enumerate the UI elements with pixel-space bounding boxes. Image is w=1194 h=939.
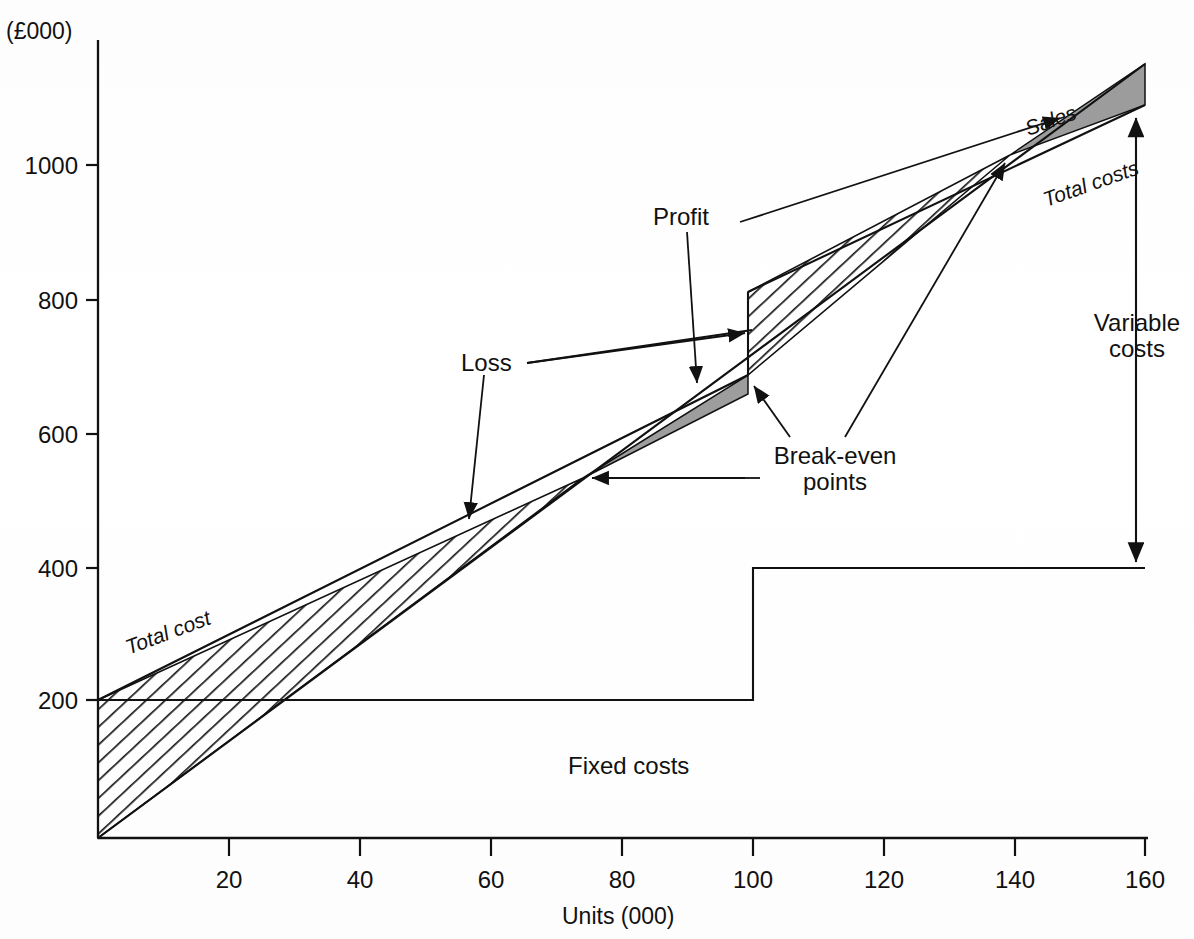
callout-variable-costs: Variable costs [1062, 310, 1194, 362]
x-axis-title: Units (000) [562, 903, 674, 930]
x-tick-100: 100 [723, 866, 783, 894]
x-tick-20: 20 [199, 866, 259, 894]
x-tick-120: 120 [854, 866, 914, 894]
break-even-line-1: Break-even [774, 442, 897, 469]
y-axis-ticks [86, 165, 98, 700]
x-axis-ticks [229, 838, 1145, 856]
callout-profit: Profit [653, 203, 709, 231]
callout-break-even: Break-even points [745, 443, 925, 495]
y-tick-1000: 1000 [8, 152, 78, 180]
callout-loss: Loss [461, 349, 512, 377]
profit-region-upper [1010, 64, 1145, 155]
profit-region-lower [583, 375, 748, 478]
chart-canvas [0, 0, 1194, 939]
y-tick-400: 400 [8, 555, 78, 583]
variable-costs-line-1: Variable [1094, 309, 1180, 336]
x-tick-140: 140 [985, 866, 1045, 894]
variable-costs-line-2: costs [1109, 335, 1165, 362]
breakeven-chart-figure: (£000) 1000 800 600 400 200 20 40 60 80 … [0, 0, 1194, 939]
y-tick-600: 600 [8, 421, 78, 449]
y-axis-unit-label: (£000) [6, 18, 72, 45]
x-tick-40: 40 [330, 866, 390, 894]
y-tick-800: 800 [8, 287, 78, 315]
callout-fixed-costs: Fixed costs [568, 752, 689, 780]
x-tick-160: 160 [1115, 866, 1175, 894]
break-even-line-2: points [803, 468, 867, 495]
x-tick-60: 60 [461, 866, 521, 894]
loss-leader-upper [527, 333, 745, 363]
x-tick-80: 80 [592, 866, 652, 894]
y-tick-200: 200 [8, 687, 78, 715]
total-cost-line [98, 105, 1145, 700]
